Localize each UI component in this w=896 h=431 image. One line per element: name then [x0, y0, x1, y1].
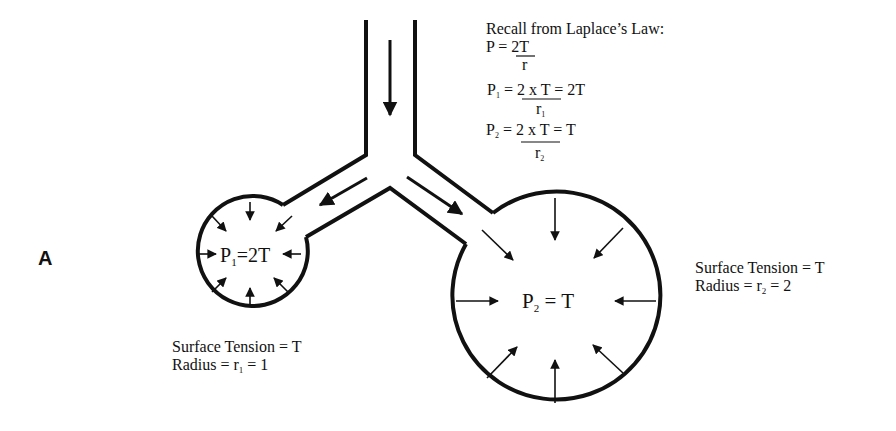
trachea-right-wall [415, 20, 493, 213]
laplace-eq1: P = 2T [486, 38, 529, 55]
laplace-eq2-den: r1 [536, 100, 545, 119]
large-alveolus-tension-label: Surface Tension = T [695, 259, 825, 276]
laplace-title: Recall from Laplace’s Law: [486, 20, 664, 38]
small-alveolus-pressure: P1=2T [220, 244, 270, 268]
laplace-eq3-den: r2 [535, 144, 544, 163]
small-alveolus-tension-label: Surface Tension = T [172, 338, 302, 355]
airway-tubes [283, 20, 493, 244]
small-alveolus-radius-label: Radius = r1 = 1 [172, 356, 268, 375]
panel-label: A [38, 247, 52, 269]
laplace-eq2: P1 = 2 x T = 2T [487, 81, 585, 100]
trachea-left-wall [283, 20, 366, 205]
airflow-left-arrow [320, 178, 367, 205]
bifurcation-inner-wall [306, 188, 466, 244]
large-alveolus-pressure: P2 = T [522, 289, 574, 314]
large-alveolus-radius-label: Radius = r2 = 2 [695, 277, 791, 296]
laplace-alveoli-diagram: A P1=2T P2 = T Surface Tension = T Radiu… [0, 0, 896, 431]
laplace-law-block: Recall from Laplace’s Law: P = 2T r P1 =… [486, 20, 664, 163]
laplace-eq1-den: r [522, 56, 528, 73]
laplace-eq3: P2 = 2 x T = T [486, 121, 576, 140]
